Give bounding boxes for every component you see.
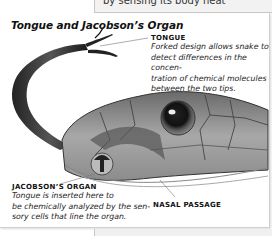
nasal-leader-line (160, 180, 175, 197)
snake-head-icon (62, 92, 268, 187)
eye-icon (161, 101, 195, 135)
next-panel-strip (94, 229, 272, 236)
jacobsons-organ-icon (91, 153, 113, 175)
tongue-leader-line (100, 38, 148, 46)
title-pointer (95, 28, 103, 38)
snake-head-illustration (0, 0, 272, 236)
